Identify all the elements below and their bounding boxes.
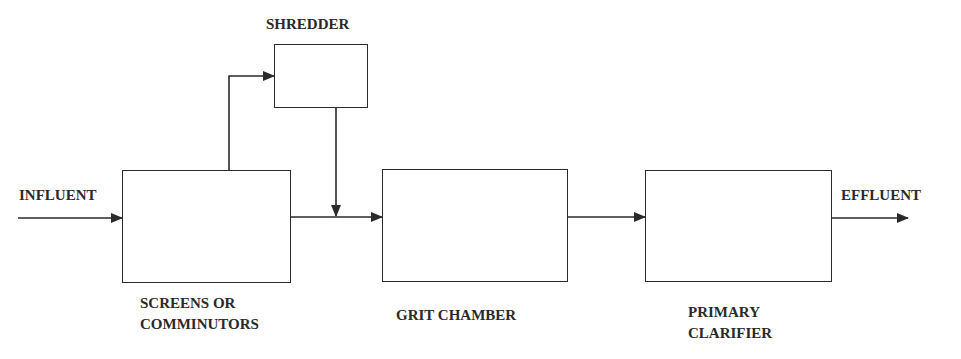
grit-chamber-box — [382, 169, 568, 282]
primary-clarifier-box — [645, 170, 832, 282]
screens-label-line1: SCREENS OR — [140, 294, 235, 312]
grit-chamber-label: GRIT CHAMBER — [396, 306, 516, 324]
influent-label: INFLUENT — [19, 186, 97, 204]
shredder-label: SHREDDER — [266, 15, 349, 33]
clarifier-label-line2: CLARIFIER — [688, 324, 772, 342]
screens-to-shredder-arrow — [229, 76, 274, 170]
shredder-box — [274, 44, 368, 108]
screens-label-line2: COMMINUTORS — [140, 315, 259, 333]
clarifier-label-line1: PRIMARY — [688, 303, 760, 321]
screens-box — [122, 170, 291, 283]
effluent-label: EFFLUENT — [841, 186, 921, 204]
